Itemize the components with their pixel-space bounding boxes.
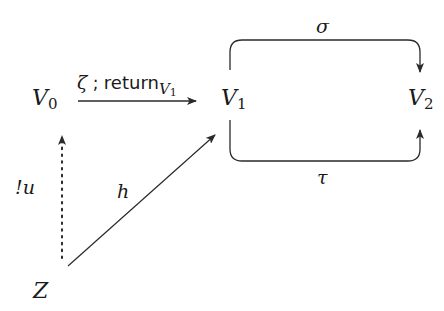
node-v2: V2 xyxy=(408,87,433,112)
node-v2-base: V xyxy=(408,85,424,110)
edge-tau-arrow xyxy=(230,120,420,161)
return-sub-base: V xyxy=(159,80,170,98)
edge-sigma-label: σ xyxy=(316,17,329,36)
node-v1: V1 xyxy=(221,87,246,112)
node-z-base: Z xyxy=(33,278,48,303)
edge-tau-label: τ xyxy=(317,168,328,187)
node-v0-sub: 0 xyxy=(48,95,58,113)
node-v0-base: V xyxy=(32,85,48,110)
node-v1-sub: 1 xyxy=(237,95,247,113)
seq-separator: ; xyxy=(87,73,104,93)
edge-sigma-arrow xyxy=(230,40,420,72)
edge-zeta-return-label: ζ ; returnV1 xyxy=(77,73,177,98)
node-v2-sub: 2 xyxy=(424,95,434,113)
node-v1-base: V xyxy=(221,85,237,110)
return-sub-index: 1 xyxy=(170,86,177,99)
diagram-canvas xyxy=(0,0,444,311)
zeta-symbol: ζ xyxy=(77,71,87,93)
edge-h-arrow xyxy=(68,135,215,266)
edge-h-label: h xyxy=(117,182,129,201)
return-word: return xyxy=(104,72,159,93)
edge-bang-u-label: !u xyxy=(15,178,35,197)
node-v0: V0 xyxy=(32,87,57,112)
node-z: Z xyxy=(33,280,48,302)
